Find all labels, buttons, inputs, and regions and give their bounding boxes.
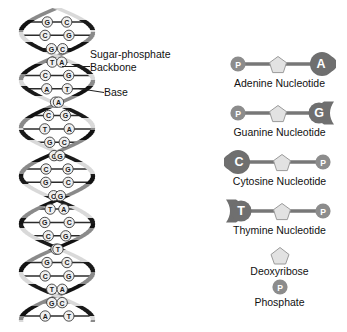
backbone-segment — [31, 64, 43, 66]
backbone-segment — [91, 126, 96, 128]
thymine-nucleotide-label: Thymine Nucleotide — [212, 224, 347, 237]
backbone-segment — [35, 158, 48, 160]
backbone-segment — [89, 178, 95, 180]
backbone-segment — [35, 62, 48, 64]
backbone-segment — [19, 272, 24, 274]
backbone-segment — [21, 24, 29, 26]
backbone-segment — [71, 112, 83, 114]
backbone-segment — [75, 18, 86, 20]
backbone-segment — [19, 84, 26, 86]
backbone-segment — [71, 46, 83, 48]
backbone-segment — [25, 164, 35, 166]
backbone-segment — [75, 284, 86, 286]
backbone-segment — [82, 310, 91, 312]
backbone-segment — [87, 84, 94, 86]
base-letter: G — [49, 46, 55, 53]
callout-base-line1: Base — [104, 86, 128, 99]
backbone-segment — [85, 264, 93, 266]
backbone-segment — [35, 96, 48, 98]
backbone-segment — [28, 210, 39, 212]
backbone-segment — [19, 28, 25, 30]
cytosine-phosphate-letter: P — [320, 158, 326, 168]
backbone-segment — [89, 124, 95, 126]
backbone-segment — [22, 280, 31, 282]
backbone-segment — [89, 82, 95, 84]
guanine-nucleotide-icon: G P — [224, 101, 336, 125]
backbone-segment — [85, 312, 93, 314]
base-letter: T — [48, 206, 53, 213]
base-letter: T — [50, 59, 55, 66]
backbone-segment — [79, 282, 89, 284]
backbone-segment — [19, 228, 26, 230]
backbone-segment — [87, 218, 94, 220]
deoxyribose-label: Deoxyribose — [212, 265, 347, 278]
backbone-segment — [82, 214, 91, 216]
backbone-segment — [19, 170, 26, 172]
backbone-segment — [19, 30, 24, 32]
backbone-segment — [31, 238, 43, 240]
backbone-segment — [39, 12, 52, 14]
backbone-segment — [19, 174, 24, 176]
nucleotide-row-thymine: T P Thymine Nucleotide — [212, 199, 347, 237]
backbone-segment — [79, 42, 89, 44]
backbone-segment — [31, 286, 43, 288]
backbone-segment — [28, 306, 39, 308]
backbone-segment — [89, 220, 95, 222]
backbone-segment — [28, 258, 39, 260]
base-letter: G — [66, 32, 72, 39]
backbone-segment — [19, 34, 25, 36]
base-letter: C — [46, 233, 51, 240]
backbone-segment — [19, 270, 24, 272]
backbone-segment — [71, 160, 83, 162]
legend-row-phosphate: P Phosphate — [212, 278, 347, 309]
backbone-segment — [89, 130, 95, 132]
backbone-segment — [71, 304, 83, 306]
backbone-segment — [75, 92, 86, 94]
backbone-segment — [19, 32, 24, 34]
base-letter: A — [44, 86, 49, 93]
adenine-phosphate-letter: P — [235, 60, 241, 70]
adenine-base-letter: A — [316, 57, 325, 71]
base-letter: T — [65, 86, 70, 93]
base-letter: T — [56, 246, 61, 253]
backbone-segment — [62, 108, 75, 110]
backbone-segment — [25, 212, 35, 214]
backbone-segment — [89, 172, 95, 174]
backbone-segment — [71, 16, 83, 18]
backbone-segment — [21, 134, 29, 136]
backbone-segment — [22, 70, 31, 72]
adenine-nucleotide-icon: A P — [224, 52, 336, 76]
backbone-segment — [87, 180, 94, 182]
backbone-segment — [79, 212, 89, 214]
backbone-segment — [79, 138, 89, 140]
backbone-segment — [91, 30, 96, 32]
adenine-nucleotide-label: Adenine Nucleotide — [212, 77, 347, 90]
backbone-segment — [79, 186, 89, 188]
backbone-segment — [79, 116, 89, 118]
backbone-segment — [28, 66, 39, 68]
backbone-segment — [89, 34, 95, 36]
backbone-segment — [22, 262, 31, 264]
backbone-segment — [82, 184, 91, 186]
guanine-nucleotide-label: Guanine Nucleotide — [212, 126, 347, 139]
backbone-segment — [75, 162, 86, 164]
base-letter: C — [43, 166, 48, 173]
cytosine-base-letter: C — [234, 155, 243, 169]
backbone-segment — [25, 138, 35, 140]
nucleotide-row-guanine: G P Guanine Nucleotide — [212, 101, 347, 139]
backbone-segment — [19, 320, 24, 322]
base-letter: A — [56, 99, 61, 106]
callout-backbone-line1: Sugar-phosphate — [90, 48, 171, 61]
backbone-segment — [89, 226, 95, 228]
backbone-segment — [31, 112, 43, 114]
base-letter: C — [64, 19, 69, 26]
backbone-segment — [87, 132, 94, 134]
backbone-segment — [21, 120, 29, 122]
backbone-segment — [82, 280, 91, 282]
backbone-segment — [91, 318, 96, 320]
helix-content: GCCGGCTACGATTACGTAGCCGCGGCCGTAGCCGATGCCG… — [19, 8, 95, 322]
backbone-segment — [87, 170, 94, 172]
backbone-segment — [71, 94, 83, 96]
backbone-segment — [28, 140, 39, 142]
backbone-segment — [21, 216, 29, 218]
